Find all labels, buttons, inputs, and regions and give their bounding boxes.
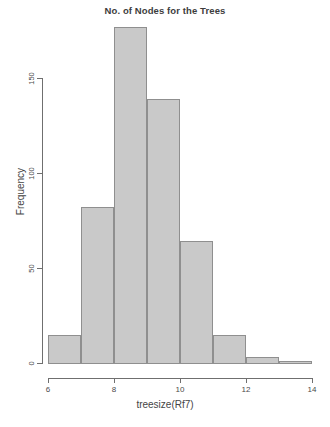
y-axis-tick-label: 50	[27, 259, 36, 279]
y-axis-tick-label: 150	[27, 69, 36, 89]
histogram-bar	[81, 207, 114, 364]
x-axis-tick	[114, 378, 115, 383]
histogram-bar	[279, 361, 312, 364]
histogram-bar	[213, 335, 246, 365]
x-axis-tick	[246, 378, 247, 383]
x-axis-tick	[180, 378, 181, 383]
x-axis-tick-label: 12	[236, 385, 256, 394]
plot-area	[0, 0, 330, 427]
x-axis-tick-label: 10	[170, 385, 190, 394]
x-axis-tick	[48, 378, 49, 383]
y-axis-tick-label: 100	[27, 164, 36, 184]
y-axis-tick-label: 0	[27, 354, 36, 374]
y-axis-tick	[37, 78, 42, 79]
y-axis-tick	[37, 268, 42, 269]
x-axis-label: treesize(Rf7)	[0, 399, 330, 410]
histogram-plot: No. of Nodes for the Trees 0 50 100 150 …	[0, 0, 330, 427]
x-axis-tick	[312, 378, 313, 383]
histogram-bar	[48, 335, 81, 365]
x-axis-tick-label: 6	[38, 385, 58, 394]
y-axis-label: Frequency	[15, 142, 26, 242]
x-axis-tick-label: 8	[104, 385, 124, 394]
x-axis-tick-label: 14	[302, 385, 322, 394]
y-axis-tick	[37, 363, 42, 364]
histogram-bar	[180, 241, 213, 364]
histogram-bar	[147, 99, 180, 364]
histogram-bar	[246, 357, 279, 364]
histogram-bar	[114, 27, 147, 364]
y-axis-line	[42, 78, 43, 364]
y-axis-tick	[37, 173, 42, 174]
